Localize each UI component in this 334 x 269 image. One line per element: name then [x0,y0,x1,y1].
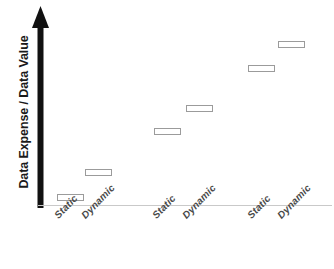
chart-container: Data Expense / Data Value StaticDynamicS… [0,0,334,269]
data-marker [278,41,305,48]
x-axis-tick-label: Dynamic [275,182,313,221]
x-axis-tick-label: Dynamic [79,182,117,221]
data-marker [85,169,112,176]
x-axis-tick-label: Dynamic [180,182,218,221]
data-marker [186,105,213,112]
x-axis-tick-label: Static [245,193,273,221]
plot-area: StaticDynamicStaticDynamicStaticDynamic [0,0,334,269]
x-axis-tick-label: Static [150,193,178,221]
data-marker [154,128,181,135]
data-marker [248,65,275,72]
